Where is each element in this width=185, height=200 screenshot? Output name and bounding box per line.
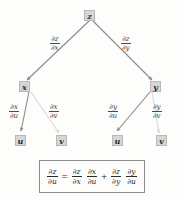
formula-term1-dx-du: ∂x ∂u [87, 167, 98, 186]
node-v-right[interactable]: v [156, 135, 167, 146]
formula-term1b-denominator: ∂u [87, 176, 98, 186]
edge-label-dz-dy: ∂z ∂y [121, 35, 131, 52]
edge-label-dz-dx-denominator: ∂x [50, 43, 60, 52]
formula-term2-dz-dy: ∂z ∂y [111, 167, 121, 186]
formula-lhs-dz-du: ∂z ∂u [47, 167, 58, 186]
edge-label-dx-dv-denominator: ∂v [49, 111, 59, 120]
formula-plus-sign: + [99, 172, 109, 181]
chain-rule-tree-diagram: z x y u v u v ∂z ∂x ∂z ∂y ∂x ∂u ∂x ∂v ∂y… [0, 0, 185, 200]
edge-label-dx-du-denominator: ∂u [9, 111, 19, 120]
formula-term2b-denominator: ∂u [126, 176, 137, 186]
edge-label-dy-dv-numerator: ∂y [152, 103, 162, 111]
edge-label-dy-du: ∂y ∂u [108, 103, 118, 120]
formula-equals-sign: = [60, 172, 70, 181]
node-u-left[interactable]: u [15, 135, 26, 146]
formula-term1a-denominator: ∂x [72, 176, 82, 186]
formula-lhs-denominator: ∂u [47, 176, 58, 186]
edge-label-dx-dv: ∂x ∂v [49, 103, 59, 120]
edge-label-dx-dv-numerator: ∂x [49, 103, 59, 111]
node-u-right[interactable]: u [112, 135, 123, 146]
formula-term2b-numerator: ∂y [126, 167, 137, 176]
node-v-left[interactable]: v [56, 135, 67, 146]
formula-term2a-numerator: ∂z [111, 167, 121, 176]
edge-label-dy-du-numerator: ∂y [108, 103, 118, 111]
formula-lhs-numerator: ∂z [47, 167, 58, 176]
formula-term2a-denominator: ∂y [111, 176, 121, 186]
edge-label-dz-dy-denominator: ∂y [121, 43, 131, 52]
node-x[interactable]: x [19, 81, 30, 92]
chain-rule-formula-box: ∂z ∂u = ∂z ∂x ∂x ∂u + ∂z ∂y ∂y ∂u [39, 160, 145, 193]
edge-label-dy-dv-denominator: ∂v [152, 111, 162, 120]
formula-term1-dz-dx: ∂z ∂x [72, 167, 82, 186]
formula-term1a-numerator: ∂z [72, 167, 82, 176]
edge-label-dy-dv: ∂y ∂v [152, 103, 162, 120]
edge-label-dx-du: ∂x ∂u [9, 103, 19, 120]
formula-term1b-numerator: ∂x [87, 167, 98, 176]
chain-rule-formula: ∂z ∂u = ∂z ∂x ∂x ∂u + ∂z ∂y ∂y ∂u [47, 167, 137, 186]
formula-term2-dy-du: ∂y ∂u [126, 167, 137, 186]
node-z[interactable]: z [84, 10, 95, 21]
node-y[interactable]: y [150, 81, 161, 92]
edge-label-dz-dx-numerator: ∂z [50, 35, 60, 43]
edge-label-dx-du-numerator: ∂x [9, 103, 19, 111]
edge-y-to-u [117, 92, 150, 131]
edge-label-dz-dy-numerator: ∂z [121, 35, 131, 43]
edge-label-dy-du-denominator: ∂u [108, 111, 118, 120]
edge-x-to-u [21, 92, 29, 131]
edge-label-dz-dx: ∂z ∂x [50, 35, 60, 52]
